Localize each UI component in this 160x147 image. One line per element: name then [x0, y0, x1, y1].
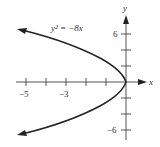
x-axis-label: x	[148, 77, 153, 87]
x-tick-label-neg5: −5	[19, 89, 29, 99]
y-axis-label: y	[122, 3, 127, 13]
parabola-chart: y² = −8x x y −5 −3 6 −6	[0, 0, 160, 147]
x-axis-arrow-icon	[138, 79, 147, 85]
equation-label: y² = −8x	[50, 23, 83, 33]
x-tick-label-neg3: −3	[59, 89, 69, 99]
y-axis-arrow-icon	[123, 15, 129, 24]
curve-arrow-lower-icon	[17, 130, 27, 136]
y-tick-label-neg6: −6	[107, 125, 117, 135]
curve-arrow-upper-icon	[17, 28, 27, 34]
y-tick-label-6: 6	[113, 29, 118, 39]
